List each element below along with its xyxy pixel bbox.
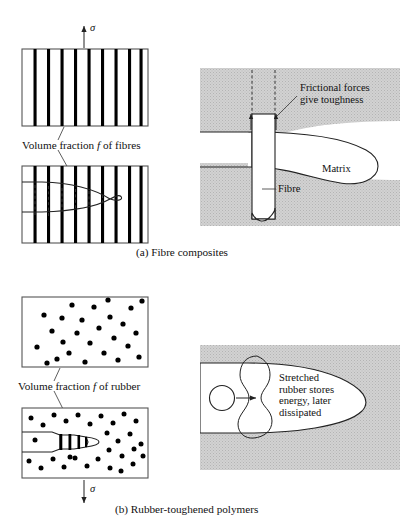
frictional-forces-line-1: Frictional forces: [300, 82, 370, 93]
volume-fraction-prefix-b: Volume fraction: [18, 380, 93, 392]
matrix-region-lower: [200, 163, 248, 226]
fibre-label: Fibre: [278, 183, 301, 194]
volume-fraction-suffix-b: of rubber: [96, 380, 140, 392]
matrix-label: Matrix: [322, 163, 352, 174]
stress-arrow-top: σ: [84, 22, 96, 48]
toughening-mechanisms-figure: σ Volume fraction f of fibres: [0, 0, 414, 525]
panel-a-specimen-bottom: [22, 166, 148, 243]
stress-arrow-bottom: σ: [84, 480, 96, 503]
bridging-fibre-a: [252, 114, 275, 219]
stress-symbol-top: σ: [90, 22, 96, 33]
stretched-rubber-line-1: Stretched: [279, 372, 320, 383]
frictional-forces-line-2: give toughness: [300, 94, 363, 105]
panel-a-specimen-top: [22, 49, 148, 126]
volume-fraction-label-b: Volume fraction f of rubber: [18, 380, 140, 392]
frictional-forces-annotation: Frictional forces give toughness: [300, 82, 372, 105]
caption-panel-a: (a) Fibre composites: [136, 246, 228, 259]
panel-b-specimen-bottom: [22, 408, 148, 478]
matrix-region-upper-left: [200, 68, 248, 132]
stretched-rubber-line-3: energy, later: [279, 395, 332, 406]
volume-fraction-label-a: Volume fraction f of fibres: [22, 139, 140, 151]
stretched-rubber-line-2: rubber stores: [279, 384, 334, 395]
stretched-rubber-line-4: dissipated: [279, 407, 322, 418]
stress-symbol-bottom: σ: [90, 483, 96, 494]
volume-fraction-suffix-a: of fibres: [100, 139, 140, 151]
undeformed-rubber-particle: [210, 386, 235, 411]
caption-panel-b: (b) Rubber-toughened polymers: [115, 503, 258, 516]
figure-root: σ Volume fraction f of fibres: [0, 0, 414, 525]
volume-fraction-prefix-a: Volume fraction: [22, 139, 97, 151]
panel-b-specimen-top: [22, 297, 148, 367]
